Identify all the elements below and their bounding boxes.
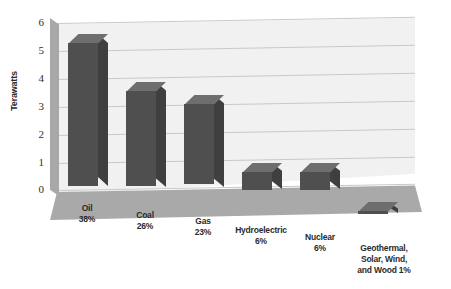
bar-gas-front	[184, 104, 214, 184]
y-tick-1: 1	[26, 156, 44, 168]
bar-geothermal-front	[358, 211, 388, 214]
bar-chart: Terawatts 6 5 4 3 2 1 0	[0, 0, 451, 289]
category-label-hydroelectric-percent: 6%	[225, 236, 297, 247]
y-tick-6: 6	[26, 16, 44, 28]
bar-hydroelectric-front	[242, 172, 272, 190]
bar-coal-front	[126, 91, 156, 186]
category-label-coal-name: Coal	[119, 210, 171, 221]
category-label-geothermal-line1: Geothermal,	[342, 243, 426, 254]
category-label-oil-name: Oil	[61, 203, 113, 214]
category-label-nuclear-percent: 6%	[292, 243, 348, 254]
bar-oil[interactable]	[68, 34, 106, 194]
bar-gas[interactable]	[184, 95, 222, 194]
category-label-gas: Gas 23%	[177, 216, 229, 238]
bar-hydroelectric[interactable]	[242, 163, 280, 194]
category-label-gas-name: Gas	[177, 216, 229, 227]
bar-oil-side	[98, 34, 108, 186]
bar-nuclear-front	[300, 172, 330, 190]
category-label-oil-percent: 38%	[61, 214, 113, 225]
category-label-coal-percent: 26%	[119, 221, 171, 232]
category-label-hydroelectric: Hydroelectric 6%	[225, 225, 297, 247]
category-label-nuclear-name: Nuclear	[292, 232, 348, 243]
bar-geothermal[interactable]	[358, 202, 396, 216]
category-label-oil: Oil 38%	[61, 203, 113, 225]
y-tick-4: 4	[26, 72, 44, 84]
category-label-coal: Coal 26%	[119, 210, 171, 232]
y-tick-0: 0	[26, 183, 44, 195]
category-label-geothermal-line3: and Wood 1%	[342, 265, 426, 276]
y-tick-5: 5	[26, 44, 44, 56]
bar-coal[interactable]	[126, 82, 164, 194]
bar-nuclear[interactable]	[300, 163, 338, 194]
bar-oil-front	[68, 43, 98, 186]
plot-left-wall	[50, 18, 59, 196]
y-tick-2: 2	[26, 128, 44, 140]
category-label-nuclear: Nuclear 6%	[292, 232, 348, 254]
category-label-geothermal: Geothermal, Solar, Wind, and Wood 1%	[342, 243, 426, 276]
y-axis-title: Terawatts	[9, 51, 19, 131]
category-label-gas-percent: 23%	[177, 227, 229, 238]
bar-coal-side	[156, 82, 166, 187]
y-tick-3: 3	[26, 100, 44, 112]
bar-gas-side	[214, 95, 224, 187]
category-label-hydroelectric-name: Hydroelectric	[225, 225, 297, 236]
category-label-geothermal-line2: Solar, Wind,	[342, 254, 426, 265]
